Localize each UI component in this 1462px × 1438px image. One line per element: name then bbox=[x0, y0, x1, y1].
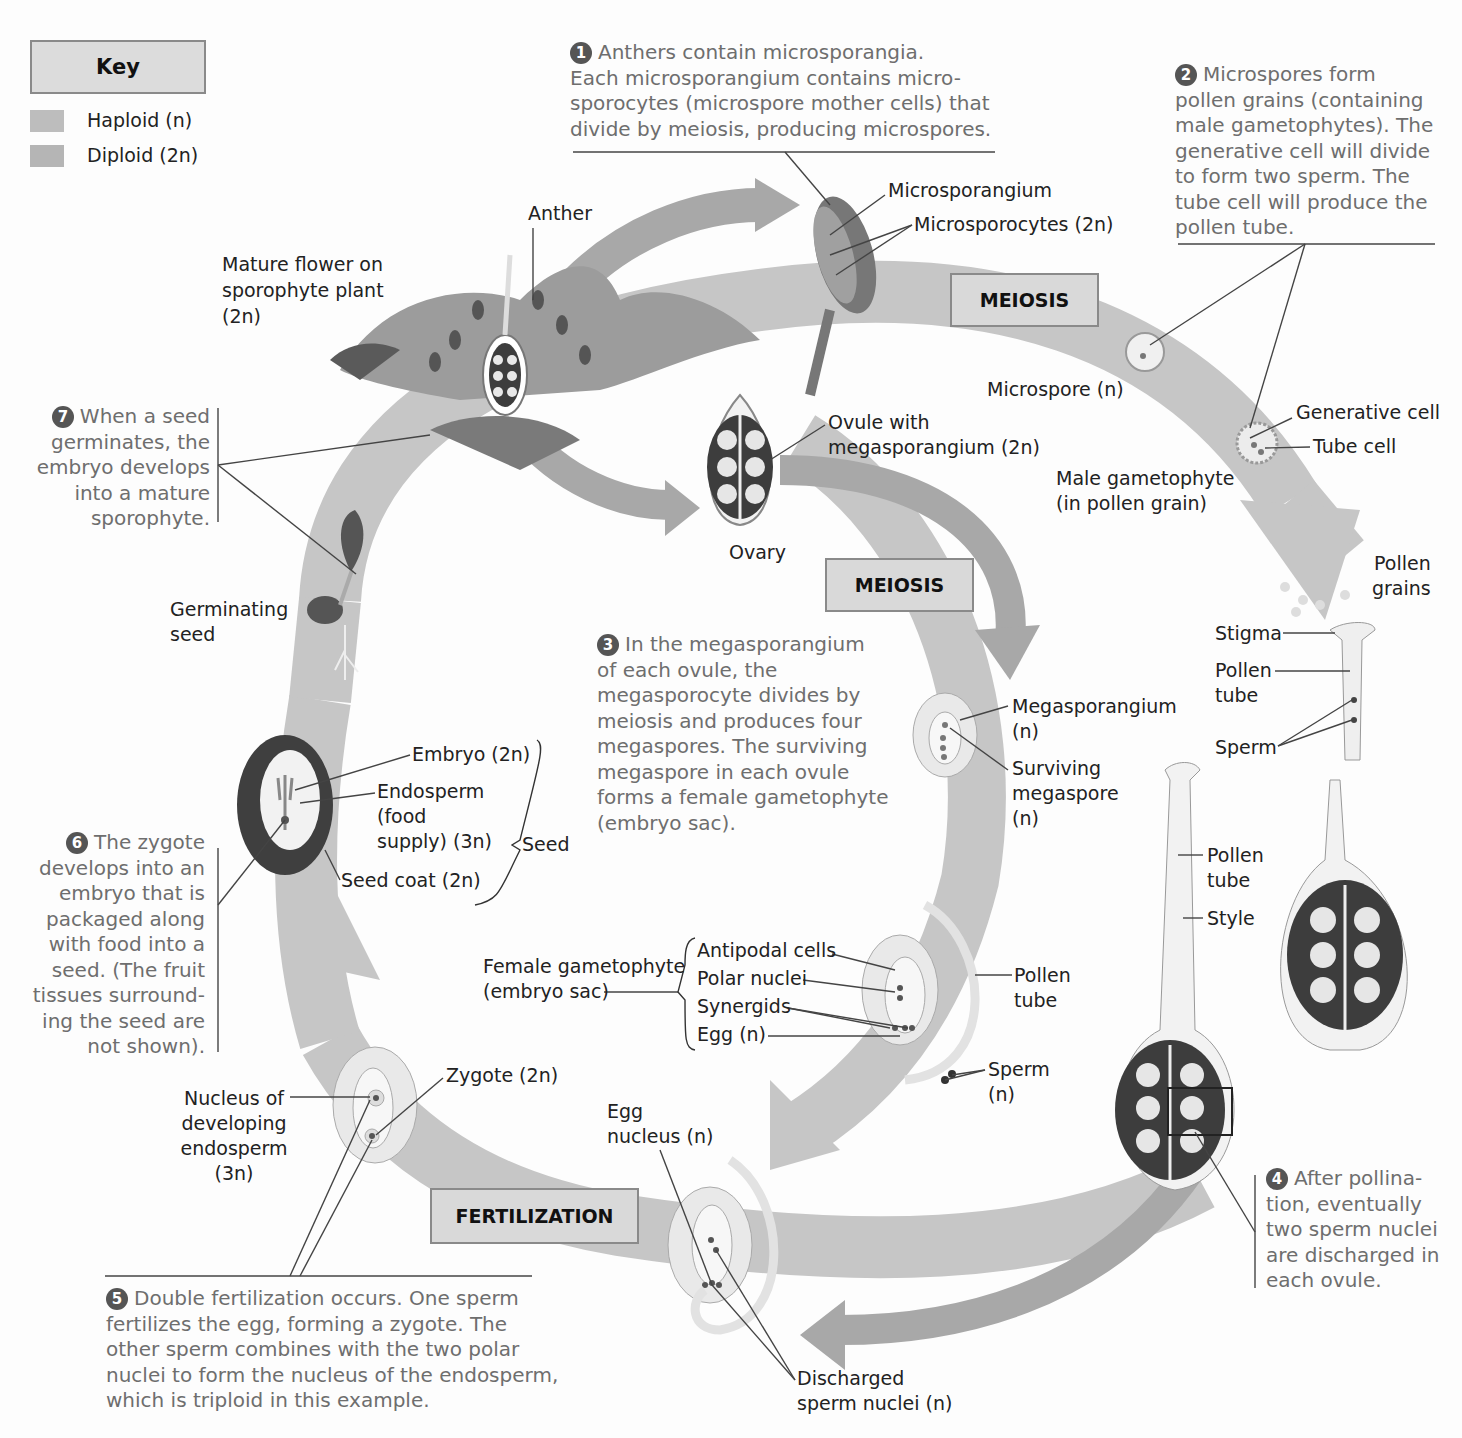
megasporangium-ovule-illustration bbox=[913, 693, 977, 777]
label-microsporangium: Microsporangium bbox=[888, 178, 1052, 203]
step-1-number-icon: 1 bbox=[570, 42, 592, 64]
label-synergids: Synergids bbox=[697, 994, 791, 1019]
diploid-swatch bbox=[30, 145, 64, 167]
label-megasporangium: Megasporangium(n) bbox=[1012, 694, 1177, 744]
label-style: Style bbox=[1207, 906, 1255, 931]
step-6-text: 6The zygote develops into anembryo that … bbox=[20, 830, 205, 1060]
step-3-text: 3In the megasporangium of each ovule, th… bbox=[597, 632, 889, 836]
label-male-gametophyte: Male gametophyte(in pollen grain) bbox=[1056, 466, 1235, 516]
label-microspore: Microspore (n) bbox=[987, 377, 1124, 402]
label-seed: Seed bbox=[522, 832, 570, 857]
step-2-number-icon: 2 bbox=[1175, 64, 1197, 86]
step-4-number-icon: 4 bbox=[1266, 1168, 1288, 1190]
label-ovary: Ovary bbox=[729, 540, 786, 565]
step-1-text: 1Anthers contain microsporangia. Each mi… bbox=[570, 40, 991, 142]
label-nucleus-endosperm: Nucleus ofdevelopingendosperm(3n) bbox=[180, 1086, 288, 1186]
label-stigma: Stigma bbox=[1215, 621, 1282, 646]
label-pollen-grains: Pollengrains bbox=[1372, 551, 1431, 601]
key-diploid-label: Diploid (2n) bbox=[87, 143, 198, 168]
label-egg: Egg (n) bbox=[697, 1022, 766, 1047]
label-sperm-mid: Sperm(n) bbox=[988, 1057, 1050, 1107]
label-germinating-seed: Germinatingseed bbox=[170, 597, 288, 647]
label-endosperm: Endosperm(foodsupply) (3n) bbox=[377, 779, 492, 854]
label-pollen-tube-top: Pollentube bbox=[1215, 658, 1272, 708]
step-2-text: 2Microspores form pollen grains (contain… bbox=[1175, 62, 1433, 241]
label-egg-nucleus: Eggnucleus (n) bbox=[607, 1099, 713, 1149]
pollen-grain-cell bbox=[1237, 423, 1277, 463]
label-surviving-megaspore: Survivingmegaspore(n) bbox=[1012, 756, 1119, 831]
pistil-illustration-right bbox=[1281, 780, 1408, 1050]
fertilization-box: FERTILIZATION bbox=[430, 1188, 639, 1244]
pistil-illustration-bottom bbox=[1115, 763, 1234, 1191]
label-ovule-with-megasporangium: Ovule withmegasporangium (2n) bbox=[828, 410, 1040, 460]
meiosis-female-box: MEIOSIS bbox=[825, 558, 974, 612]
label-pollen-tube-style: Pollentube bbox=[1207, 843, 1264, 893]
seed-illustration bbox=[237, 735, 333, 875]
step-4-text: 4After pollina- tion, eventuallytwo sper… bbox=[1266, 1166, 1439, 1294]
label-tube-cell: Tube cell bbox=[1313, 434, 1396, 459]
ovary-illustration bbox=[707, 395, 773, 525]
label-discharged-sperm: Dischargedsperm nuclei (n) bbox=[797, 1366, 952, 1416]
key-title: Key bbox=[30, 40, 206, 94]
label-polar-nuclei: Polar nuclei bbox=[697, 966, 807, 991]
key-haploid-label: Haploid (n) bbox=[87, 108, 192, 133]
label-female-gametophyte: Female gametophyte(embryo sac) bbox=[483, 954, 685, 1004]
step-5-text: 5Double fertilization occurs. One sperm … bbox=[106, 1286, 558, 1414]
label-pollen-tube-mid: Pollentube bbox=[1014, 963, 1071, 1013]
step-5-number-icon: 5 bbox=[106, 1288, 128, 1310]
zygote-ovule-illustration bbox=[333, 1047, 417, 1163]
step-6-number-icon: 6 bbox=[66, 832, 88, 854]
microspore-cell bbox=[1126, 333, 1164, 371]
label-zygote: Zygote (2n) bbox=[446, 1063, 558, 1088]
step-7-text: 7When a seed germinates, theembryo devel… bbox=[20, 404, 210, 532]
step-3-number-icon: 3 bbox=[597, 634, 619, 656]
step-7-number-icon: 7 bbox=[52, 406, 74, 428]
label-embryo: Embryo (2n) bbox=[412, 742, 530, 767]
meiosis-male-box: MEIOSIS bbox=[950, 273, 1099, 327]
label-mature-flower: Mature flower onsporophyte plant(2n) bbox=[222, 251, 384, 329]
label-generative-cell: Generative cell bbox=[1296, 400, 1440, 425]
label-seed-coat: Seed coat (2n) bbox=[341, 868, 481, 893]
label-antipodal-cells: Antipodal cells bbox=[697, 938, 836, 963]
label-microsporocytes: Microsporocytes (2n) bbox=[914, 212, 1113, 237]
label-anther: Anther bbox=[528, 201, 592, 226]
label-sperm-top: Sperm bbox=[1215, 735, 1277, 760]
haploid-swatch bbox=[30, 110, 64, 132]
